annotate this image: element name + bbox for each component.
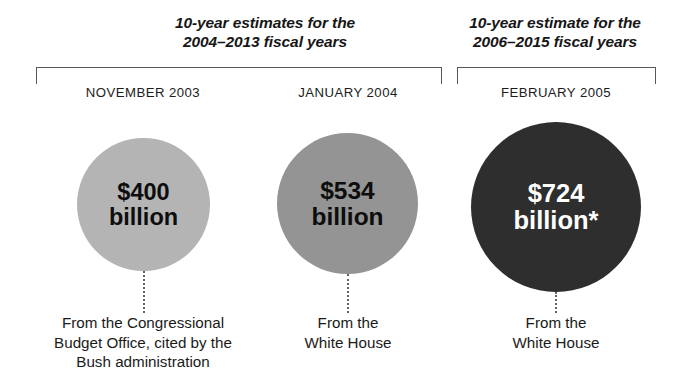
caption-line: From the xyxy=(233,313,463,333)
group-heading-2006-2015: 10-year estimate for the 2006–2015 fisca… xyxy=(440,13,670,51)
connector-line-november-2003 xyxy=(143,271,145,313)
circle-zone: $724 billion* xyxy=(441,108,671,300)
deficit-estimates-infographic: 10-year estimates for the 2004–2013 fisc… xyxy=(0,0,681,390)
caption-january-2004: From the White House xyxy=(233,313,463,352)
bracket-2006-2015 xyxy=(457,67,656,84)
estimate-column-january-2004: $534 billion From the White House xyxy=(233,108,463,390)
circle-unit: billion xyxy=(109,205,178,230)
value-circle-400-billion: $400 billion xyxy=(77,138,210,271)
connector-line-february-2005 xyxy=(555,292,557,313)
group-heading-line: 10-year estimates for the xyxy=(140,13,390,32)
caption-line: White House xyxy=(441,333,671,353)
circle-amount: $534 xyxy=(320,178,375,204)
group-heading-2004-2013: 10-year estimates for the 2004–2013 fisc… xyxy=(140,13,390,51)
date-label-november-2003: NOVEMBER 2003 xyxy=(63,85,223,100)
connector-line-january-2004 xyxy=(347,274,349,313)
circle-unit: billion* xyxy=(514,207,599,234)
group-heading-line: 2006–2015 fiscal years xyxy=(440,32,670,51)
date-label-february-2005: FEBRUARY 2005 xyxy=(476,85,636,100)
circle-amount: $400 xyxy=(117,180,169,205)
bracket-2004-2013 xyxy=(36,67,442,84)
group-heading-line: 10-year estimate for the xyxy=(440,13,670,32)
group-heading-line: 2004–2013 fiscal years xyxy=(140,32,390,51)
estimate-column-february-2005: $724 billion* From the White House xyxy=(441,108,671,390)
circle-unit: billion xyxy=(311,204,383,230)
caption-line: From the xyxy=(441,313,671,333)
caption-february-2005: From the White House xyxy=(441,313,671,352)
value-circle-534-billion: $534 billion xyxy=(277,133,418,274)
caption-line: White House xyxy=(233,333,463,353)
circle-zone: $534 billion xyxy=(233,108,463,300)
date-label-january-2004: JANUARY 2004 xyxy=(268,85,428,100)
value-circle-724-billion: $724 billion* xyxy=(471,122,641,292)
circle-amount: $724 xyxy=(528,180,585,207)
